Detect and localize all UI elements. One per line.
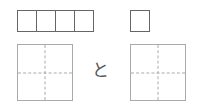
answer-box-3[interactable] [55, 10, 75, 32]
answer-boxes-left [17, 10, 93, 32]
answer-box-1[interactable] [17, 10, 37, 32]
answer-box-4[interactable] [74, 10, 94, 32]
answer-box-5[interactable] [130, 10, 150, 32]
writing-grid-left[interactable] [17, 44, 73, 101]
horizontal-guide-line [131, 72, 185, 73]
writing-grid-right[interactable] [130, 44, 186, 101]
joiner-text: と [92, 60, 109, 80]
answer-box-2[interactable] [36, 10, 56, 32]
horizontal-guide-line [18, 72, 72, 73]
answer-boxes-right [130, 10, 149, 32]
